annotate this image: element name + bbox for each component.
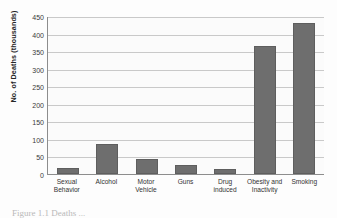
bar-chart-figure: No. of Deaths (thousands) 45040035030025… <box>0 0 337 218</box>
bar-series <box>48 17 324 174</box>
x-tick-label: Obesity and Inactivity <box>245 178 285 193</box>
bar-slot <box>245 17 284 174</box>
y-tick-label: 100 <box>24 136 44 143</box>
bar-slot <box>166 17 205 174</box>
bar-slot <box>87 17 126 174</box>
bar <box>96 144 118 174</box>
bar-slot <box>206 17 245 174</box>
bar <box>136 159 158 174</box>
y-tick-label: 50 <box>24 154 44 161</box>
bar <box>57 168 79 174</box>
bar <box>254 46 276 174</box>
bar <box>175 165 197 174</box>
y-tick-label: 450 <box>24 14 44 21</box>
bar-slot <box>127 17 166 174</box>
figure-caption: Figure 1.1 Deaths ... <box>12 209 332 218</box>
y-axis-tick-labels: 450400350300250200150100500 <box>24 14 44 175</box>
y-tick-label: 0 <box>24 172 44 179</box>
y-axis-title: No. of Deaths (thousands) <box>9 0 18 117</box>
bar <box>293 23 315 174</box>
y-tick-label: 200 <box>24 101 44 108</box>
x-tick-label: Alcohol <box>87 178 127 193</box>
x-tick-label: Guns <box>166 178 206 193</box>
plot-area <box>47 17 324 175</box>
bar-slot <box>48 17 87 174</box>
x-tick-label: Drug induced <box>205 178 245 193</box>
bar <box>214 169 236 174</box>
x-tick-label: Sexual Behavior <box>47 178 87 193</box>
bar-slot <box>285 17 324 174</box>
y-tick-label: 150 <box>24 119 44 126</box>
x-tick-label: Motor Vehicle <box>126 178 166 193</box>
y-tick-label: 350 <box>24 49 44 56</box>
y-tick-label: 300 <box>24 66 44 73</box>
y-tick-label: 400 <box>24 31 44 38</box>
y-tick-label: 250 <box>24 84 44 91</box>
x-axis-tick-labels: Sexual BehaviorAlcoholMotor VehicleGunsD… <box>47 178 324 193</box>
x-tick-label: Smoking <box>284 178 324 193</box>
